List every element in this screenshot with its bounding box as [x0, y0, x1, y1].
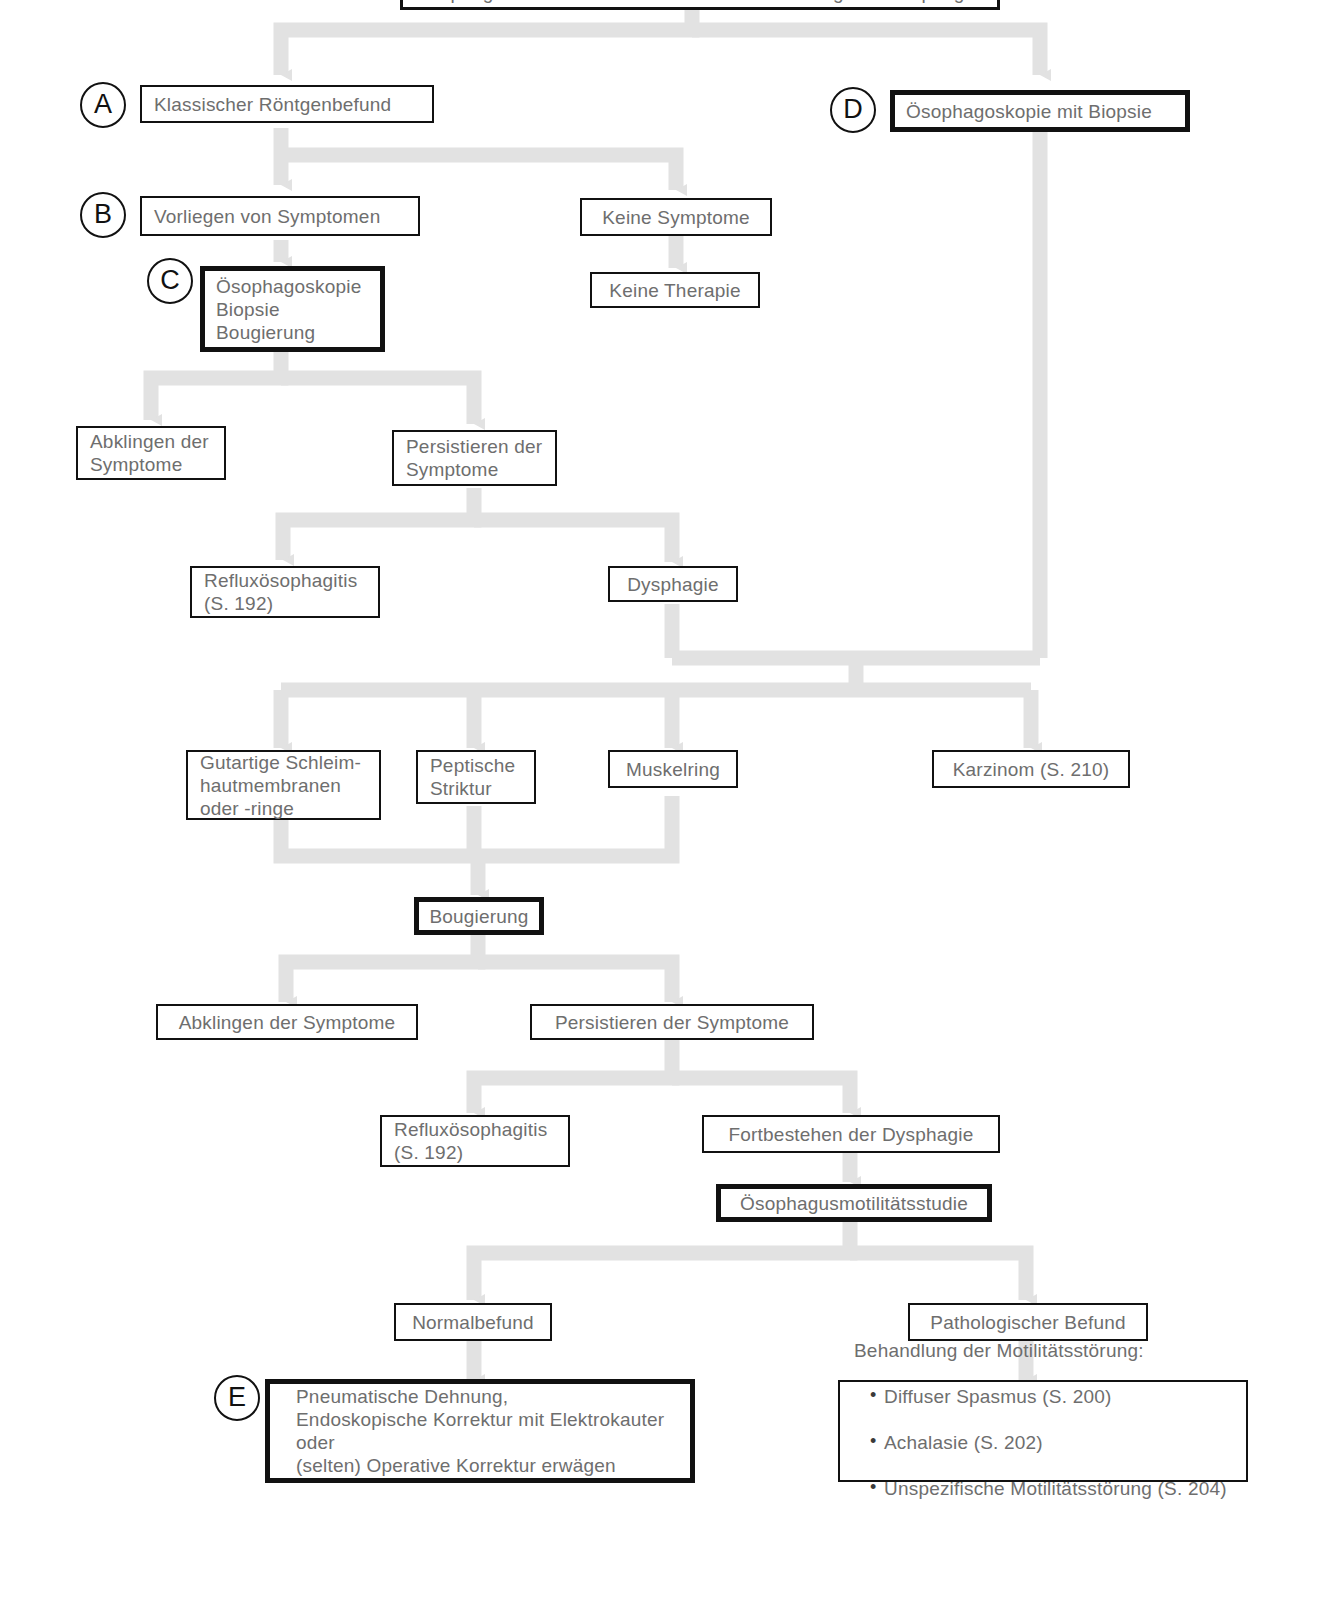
title-box: Ösophagusbeschwerden Kontrastmitteldarst… — [400, 0, 1000, 10]
behandlung-list: Diffuser Spasmus (S. 200) Achalasie (S. … — [854, 1362, 1234, 1523]
badge-b: B — [80, 192, 126, 238]
node-pathologischer-befund[interactable]: Pathologischer Befund — [908, 1303, 1148, 1341]
node-pneumatische-dehnung[interactable]: Pneumatische Dehnung, Endoskopische Korr… — [265, 1379, 695, 1483]
node-bougierung[interactable]: Bougierung — [414, 897, 544, 935]
node-klassischer-roentgenbefund[interactable]: Klassischer Röntgenbefund — [140, 85, 434, 123]
badge-e: E — [214, 1375, 260, 1421]
node-keine-symptome[interactable]: Keine Symptome — [580, 198, 772, 236]
node-refluxoesophagitis-2[interactable]: Refluxösophagitis (S. 192) — [380, 1115, 570, 1167]
title-text-right: Kontrastmitteldarstellung des Ösophagus — [630, 0, 985, 4]
title-text-left: Ösophagusbeschwerden — [415, 0, 629, 4]
node-oesophagusmotilitaetsstudie[interactable]: Ösophagusmotilitätsstudie — [716, 1184, 992, 1222]
node-karzinom[interactable]: Karzinom (S. 210) — [932, 750, 1130, 788]
flowchart-canvas: Ösophagusbeschwerden Kontrastmitteldarst… — [0, 0, 1342, 1611]
node-vorliegen-von-symptomen[interactable]: Vorliegen von Symptomen — [140, 196, 420, 236]
node-behandlung-motilitaetsstoerung[interactable]: Behandlung der Motilitätsstörung: Diffus… — [838, 1380, 1248, 1482]
node-oesophagoskopie-mit-biopsie[interactable]: Ösophagoskopie mit Biopsie — [890, 90, 1190, 132]
badge-d: D — [830, 87, 876, 133]
node-peptische-striktur[interactable]: Peptische Striktur — [416, 750, 536, 804]
node-keine-therapie[interactable]: Keine Therapie — [590, 272, 760, 308]
badge-a: A — [80, 82, 126, 128]
badge-c: C — [147, 258, 193, 304]
list-item: Unspezifische Motilitätsstörung (S. 204) — [870, 1477, 1234, 1500]
node-normalbefund[interactable]: Normalbefund — [394, 1303, 552, 1341]
node-persistieren-der-symptome-1[interactable]: Persistieren der Symptome — [392, 430, 557, 486]
node-abklingen-der-symptome-2[interactable]: Abklingen der Symptome — [156, 1004, 418, 1040]
node-abklingen-der-symptome-1[interactable]: Abklingen der Symptome — [76, 426, 226, 480]
node-gutartige-schleimhautmembranen[interactable]: Gutartige Schleim- hautmembranen oder -r… — [186, 750, 381, 820]
node-fortbestehen-der-dysphagie[interactable]: Fortbestehen der Dysphagie — [702, 1115, 1000, 1153]
node-dysphagie[interactable]: Dysphagie — [608, 566, 738, 602]
node-refluxoesophagitis-1[interactable]: Refluxösophagitis (S. 192) — [190, 566, 380, 618]
behandlung-heading: Behandlung der Motilitätsstörung: — [854, 1339, 1234, 1362]
list-item: Diffuser Spasmus (S. 200) — [870, 1385, 1234, 1408]
node-oesophagoskopie-biopsie-bougierung[interactable]: Ösophagoskopie Biopsie Bougierung — [200, 266, 385, 352]
list-item: Achalasie (S. 202) — [870, 1431, 1234, 1454]
node-muskelring[interactable]: Muskelring — [608, 750, 738, 788]
node-persistieren-der-symptome-2[interactable]: Persistieren der Symptome — [530, 1004, 814, 1040]
